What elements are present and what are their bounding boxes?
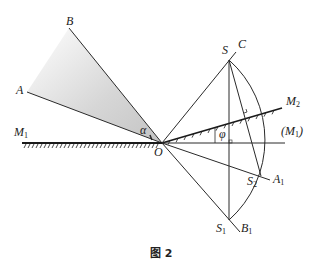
hatch-mark [28, 144, 30, 148]
arc-S-S1 [229, 60, 265, 220]
label-O: O [154, 145, 163, 159]
hatch-mark [100, 144, 102, 148]
hatch-mark [68, 144, 70, 148]
label-B: B [66, 14, 74, 28]
hatch-mark [136, 144, 138, 148]
hatch-mark [80, 144, 82, 148]
hatch-mark [24, 144, 26, 148]
figure-caption: 图 2 [150, 247, 172, 260]
hatch-mark [148, 144, 150, 148]
right-angle-marker [244, 109, 247, 113]
hatch-mark [120, 144, 122, 148]
label-A1: A1 [272, 172, 284, 187]
label-B1: B1 [241, 221, 252, 236]
label-alpha: α [140, 123, 147, 137]
hatch-mark [112, 144, 114, 148]
hatch-mark [76, 144, 78, 148]
hatch-mark [44, 144, 46, 148]
mirror-M1-hatching [24, 144, 158, 148]
hatch-mark [116, 144, 118, 148]
hatch-mark [56, 144, 58, 148]
hatch-mark [108, 144, 110, 148]
hatch-mark [40, 144, 42, 148]
hatch-mark [64, 144, 66, 148]
label-M2: M2 [285, 94, 300, 109]
hatch-mark [36, 144, 38, 148]
label-S1: S1 [216, 221, 226, 236]
hatch-mark [96, 144, 98, 148]
hatch-mark [60, 144, 62, 148]
hatch-mark [52, 144, 54, 148]
label-S: S [222, 43, 228, 57]
label-M1: M1 [13, 125, 28, 140]
hatch-mark [88, 144, 90, 148]
hatch-mark [132, 144, 134, 148]
hatch-mark [128, 144, 130, 148]
hatch-mark [92, 144, 94, 148]
hatch-mark [84, 144, 86, 148]
label-A: A [15, 83, 24, 97]
label-phi: φ [219, 127, 226, 141]
label-S2: S2 [247, 174, 257, 189]
reflection-diagram: B A M1 α O S C M2 (M1) φ S2 A1 S1 B1 图 2 [0, 0, 315, 261]
hatch-mark [32, 144, 34, 148]
label-C: C [238, 37, 247, 51]
hatch-mark [144, 144, 146, 148]
hatch-mark [140, 144, 142, 148]
hatch-mark [104, 144, 106, 148]
label-M1-paren: (M1) [281, 124, 303, 139]
hatch-mark [48, 144, 50, 148]
hatch-mark [124, 144, 126, 148]
hatch-mark [72, 144, 74, 148]
